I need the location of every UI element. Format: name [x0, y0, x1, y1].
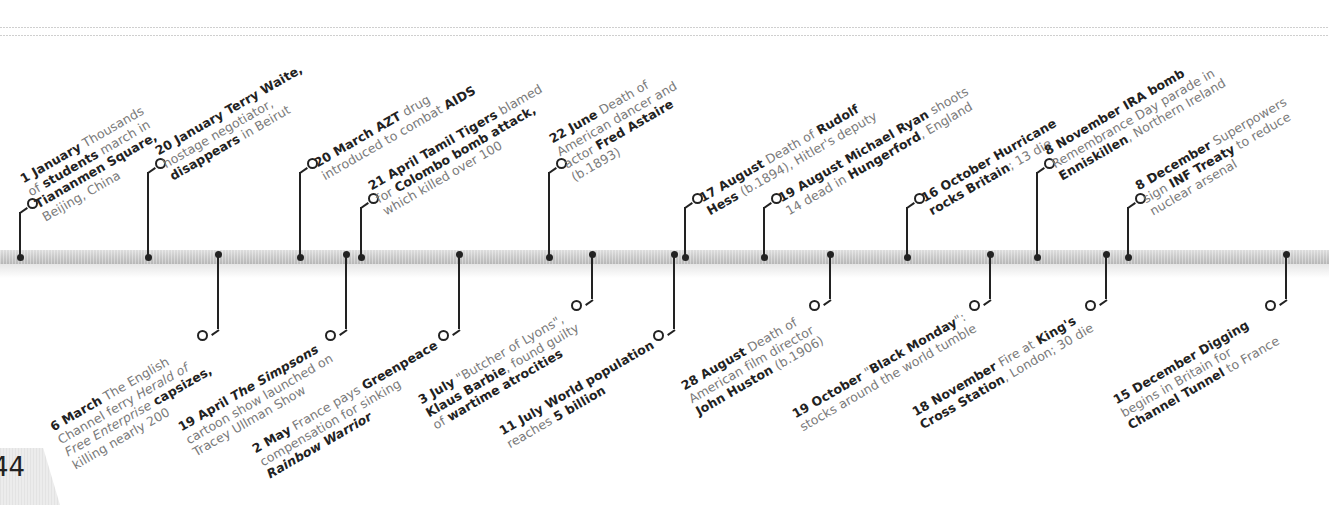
pin-kink — [684, 202, 693, 209]
pin-kink — [823, 299, 832, 306]
pin-kink — [763, 202, 772, 209]
pin-stem — [829, 254, 831, 299]
event-label-line: stocks around the world tumble — [797, 321, 979, 434]
pin-stem — [458, 254, 460, 329]
pin-stem — [763, 207, 765, 257]
pin-stem — [673, 254, 675, 329]
event-label-line: hostage negotiator, — [160, 75, 312, 171]
pin-stem — [1127, 207, 1129, 257]
pin-stem — [1105, 254, 1107, 299]
pin-ring-icon — [1085, 300, 1096, 311]
pin-kink — [339, 329, 348, 336]
event-label-20-january: 20 January Terry Waite,hostage negotiato… — [153, 62, 320, 183]
pin-stem — [591, 254, 593, 299]
pin-stem — [147, 172, 149, 257]
pin-kink — [1099, 299, 1108, 306]
pin-stem — [684, 207, 686, 257]
pin-kink — [19, 207, 28, 214]
pin-ring-icon — [809, 300, 820, 311]
pin-kink — [360, 202, 369, 209]
event-label-1-january: 1 January Thousandsof students march inT… — [18, 104, 168, 224]
pin-ring-icon — [325, 330, 336, 341]
event-label-line: begins in Britain for — [1118, 321, 1275, 420]
pin-stem — [1285, 254, 1287, 299]
pin-ring-icon — [653, 330, 664, 341]
pin-stem — [345, 254, 347, 329]
pin-kink — [906, 202, 915, 209]
event-label-15-december: 15 December Diggingbegins in Britain for… — [1111, 308, 1282, 432]
top-rule-2 — [0, 35, 1329, 36]
event-text: stocks around the world tumble — [797, 320, 979, 434]
pin-kink — [299, 167, 308, 174]
pin-ring-icon — [197, 330, 208, 341]
pin-ring-icon — [438, 330, 449, 341]
pin-kink — [667, 329, 676, 336]
pin-stem — [360, 207, 362, 257]
pin-ring-icon — [571, 300, 582, 311]
timeline-band-shadow — [0, 264, 1329, 278]
pin-kink — [1036, 167, 1045, 174]
pin-kink — [452, 329, 461, 336]
pin-stem — [548, 172, 550, 257]
pin-kink — [548, 167, 557, 174]
pin-stem — [19, 212, 21, 257]
pin-stem — [1036, 172, 1038, 257]
top-rule-1 — [0, 27, 1329, 28]
pin-kink — [1127, 202, 1136, 209]
pin-kink — [585, 299, 594, 306]
pin-kink — [1279, 299, 1288, 306]
pin-ring-icon — [969, 300, 980, 311]
pin-kink — [983, 299, 992, 306]
pin-stem — [217, 254, 219, 329]
page-number: 44 — [0, 452, 25, 482]
pin-ring-icon — [1265, 300, 1276, 311]
pin-stem — [989, 254, 991, 299]
pin-stem — [906, 207, 908, 257]
pin-kink — [147, 167, 156, 174]
pin-stem — [299, 172, 301, 257]
pin-kink — [211, 329, 220, 336]
event-label-22-june: 22 June Death ofAmerican dancer andactor… — [547, 66, 694, 184]
